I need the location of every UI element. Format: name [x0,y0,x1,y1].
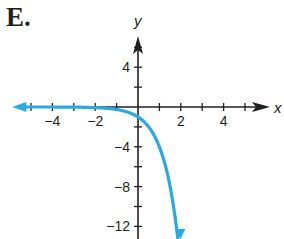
y-tick-label: 4 [122,59,130,75]
y-axis-label: y [133,12,143,29]
curve-left-arrow-icon [12,102,26,112]
x-tick-label: −4 [44,113,60,129]
x-axis-label: x [273,99,282,116]
y-tick-label: −12 [106,218,130,234]
y-tick-label: −8 [114,179,130,195]
chart: −4−2244−4−8−12xy [0,0,284,239]
x-tick-label: 4 [220,113,228,129]
x-tick-label: 2 [177,113,185,129]
y-tick-label: −4 [114,139,130,155]
x-tick-label: −2 [87,113,103,129]
